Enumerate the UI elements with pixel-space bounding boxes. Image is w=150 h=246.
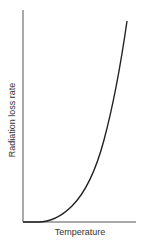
radiation-curve: [23, 21, 127, 222]
y-axis-label: Radiation loss rate: [7, 83, 17, 158]
x-axis-label: Temperature: [55, 227, 106, 237]
chart: Radiation loss rate Temperature: [0, 0, 150, 246]
chart-plot: [0, 0, 150, 246]
